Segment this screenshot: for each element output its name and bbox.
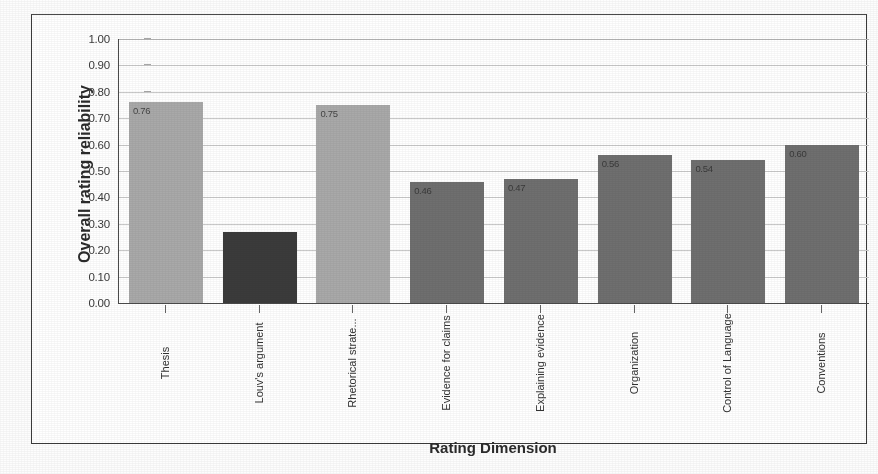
x-tick-mark bbox=[259, 305, 260, 313]
bar-value-label: 0.75 bbox=[320, 108, 337, 119]
x-tick-slot: Rhetorical strate... bbox=[315, 305, 389, 425]
x-axis-tick-labels: ThesisLouv's argumentRhetorical strate..… bbox=[118, 305, 868, 425]
x-axis-title: Rating Dimension bbox=[118, 439, 868, 456]
bar-slot: 0.56 bbox=[598, 39, 672, 303]
plot-area: 0.760.750.460.470.560.540.60 bbox=[118, 39, 869, 304]
bar: 0.46 bbox=[410, 182, 484, 303]
y-tick-label: 0.40 bbox=[88, 191, 110, 203]
y-tick-label: 0.80 bbox=[88, 86, 110, 98]
x-tick-slot: Evidence for claims bbox=[409, 305, 483, 425]
x-tick-slot: Thesis bbox=[128, 305, 202, 425]
bar-slot: 0.54 bbox=[691, 39, 765, 303]
bar: 0.56 bbox=[598, 155, 672, 303]
chart-frame-border: Overall rating reliability 1.000.900.800… bbox=[31, 14, 867, 444]
bar-slot: 0.75 bbox=[316, 39, 390, 303]
y-tick-label: 0.50 bbox=[88, 165, 110, 177]
bar: 0.75 bbox=[316, 105, 390, 303]
bar-slot: 0.47 bbox=[504, 39, 578, 303]
bar: 0.76 bbox=[129, 102, 203, 303]
bar-value-label: 0.47 bbox=[508, 182, 525, 193]
x-tick-slot: Conventions bbox=[784, 305, 858, 425]
x-tick-label: Evidence for claims bbox=[440, 315, 452, 410]
bar-slot: 0.60 bbox=[785, 39, 859, 303]
x-tick-mark bbox=[165, 305, 166, 313]
y-tick-label: 0.90 bbox=[88, 59, 110, 71]
x-tick-mark bbox=[821, 305, 822, 313]
y-tick-label: 0.20 bbox=[88, 244, 110, 256]
y-tick-label: 1.00 bbox=[88, 33, 110, 45]
x-tick-slot: Louv's argument bbox=[222, 305, 296, 425]
x-tick-mark bbox=[634, 305, 635, 313]
figure-canvas: Overall rating reliability 1.000.900.800… bbox=[0, 0, 878, 474]
bar: 0.47 bbox=[504, 179, 578, 303]
bar-slot: 0.76 bbox=[129, 39, 203, 303]
x-tick-mark bbox=[446, 305, 447, 313]
x-tick-mark bbox=[540, 305, 541, 313]
x-tick-label: Conventions bbox=[815, 332, 827, 393]
x-tick-slot: Organization bbox=[597, 305, 671, 425]
x-tick-slot: Explaining evidence bbox=[503, 305, 577, 425]
y-tick-label: 0.70 bbox=[88, 112, 110, 124]
y-tick-label: 0.60 bbox=[88, 139, 110, 151]
x-tick-label: Explaining evidence bbox=[534, 314, 546, 412]
bar-value-label: 0.76 bbox=[133, 105, 150, 116]
x-tick-label: Control of Language bbox=[721, 313, 733, 413]
bar-value-label: 0.46 bbox=[414, 185, 431, 196]
x-tick-label: Organization bbox=[628, 332, 640, 394]
x-tick-label: Louv's argument bbox=[253, 323, 265, 404]
x-tick-slot: Control of Language bbox=[690, 305, 764, 425]
x-tick-label: Rhetorical strate... bbox=[346, 318, 358, 407]
bar-slot bbox=[223, 39, 297, 303]
bar-value-label: 0.60 bbox=[789, 148, 806, 159]
bar-slot: 0.46 bbox=[410, 39, 484, 303]
y-axis-tick-labels: 1.000.900.800.700.600.500.400.300.200.10… bbox=[64, 39, 110, 303]
bar-value-label: 0.56 bbox=[602, 158, 619, 169]
bar-series: 0.760.750.460.470.560.540.60 bbox=[119, 39, 869, 303]
bar: 0.54 bbox=[691, 160, 765, 303]
y-tick-label: 0.10 bbox=[88, 271, 110, 283]
bar bbox=[223, 232, 297, 303]
bar: 0.60 bbox=[785, 145, 859, 303]
y-tick-label: 0.30 bbox=[88, 218, 110, 230]
x-tick-label: Thesis bbox=[159, 347, 171, 379]
x-tick-mark bbox=[727, 305, 728, 313]
bar-value-label: 0.54 bbox=[695, 163, 712, 174]
x-tick-mark bbox=[352, 305, 353, 313]
y-tick-label: 0.00 bbox=[88, 297, 110, 309]
